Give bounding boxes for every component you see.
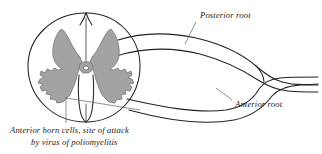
posterior-median-sulcus [80, 13, 92, 62]
caption-line-2: by virus of poliomyelitis [31, 137, 118, 147]
posterior-root-leader-line [185, 22, 196, 44]
posterior-root-label: Posterior root [199, 10, 251, 20]
anterior-median-fissure [78, 75, 93, 122]
anterior-root-leader-line [216, 88, 232, 100]
posterior-root-lower-edge [116, 49, 318, 92]
anterior-root-upper-edge [127, 77, 318, 111]
spinal-cord-figure: Posterior root Anterior root Anterior ho… [0, 0, 322, 154]
central-canal [83, 66, 88, 70]
leader-lines [66, 22, 232, 123]
anterior-root-lower-edge [129, 85, 318, 122]
anterior-root-label: Anterior root [234, 99, 283, 109]
nerve-root-group [116, 34, 318, 122]
caption-line-1: Anterior horn cells, site of attack [9, 125, 129, 135]
